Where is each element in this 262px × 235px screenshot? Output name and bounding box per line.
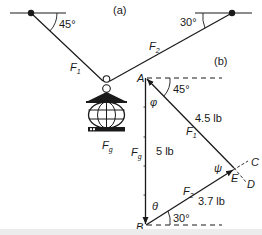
point-c-label: C — [251, 156, 259, 168]
theta-label: θ — [152, 200, 158, 212]
force-diagram: 45° 30° (a) F1 F2 Fg (b) — [0, 0, 262, 235]
f1-magnitude-label: 4.5 lb — [195, 112, 222, 124]
angle-30-b-label: 30° — [173, 212, 190, 224]
bird-feeder-icon — [86, 92, 127, 132]
part-a: 45° 30° (a) F1 F2 Fg — [10, 4, 252, 154]
ring-bottom-icon — [103, 85, 111, 93]
dashed-line-cd — [233, 161, 248, 170]
f1-label: F1 — [70, 61, 81, 75]
f2-label: F2 — [149, 40, 160, 54]
point-a-label: A — [136, 72, 144, 84]
point-d-label: D — [247, 178, 255, 190]
angle-arc-30-a — [203, 13, 205, 28]
angle-arc-30-b — [168, 211, 170, 225]
angle-45-label: 45° — [59, 18, 76, 30]
angle-45-b-label: 45° — [173, 83, 190, 95]
angle-30-label: 30° — [180, 16, 197, 28]
f2-magnitude-label: 3.7 lb — [198, 195, 225, 207]
point-e-label: E — [231, 172, 239, 184]
rope-f2 — [110, 13, 232, 81]
ring-top-icon — [103, 76, 110, 83]
f1-label-b: F1 — [186, 125, 197, 139]
fg-label-b: Fg — [131, 146, 142, 161]
fg-magnitude-label: 5 lb — [156, 145, 174, 157]
part-b: (b) A B C D E 45° 30° φ θ ψ Fg — [131, 55, 259, 233]
f2-label-b: F2 — [183, 185, 194, 199]
angle-arc-45-a — [50, 13, 57, 31]
bottom-edge-strip — [0, 229, 262, 235]
psi-label: ψ — [214, 162, 222, 174]
fg-label-a: Fg — [102, 139, 113, 154]
part-b-label: (b) — [214, 55, 227, 67]
phi-label: φ — [150, 96, 157, 108]
part-a-label: (a) — [113, 4, 126, 16]
angle-arc-45-b — [164, 78, 170, 96]
